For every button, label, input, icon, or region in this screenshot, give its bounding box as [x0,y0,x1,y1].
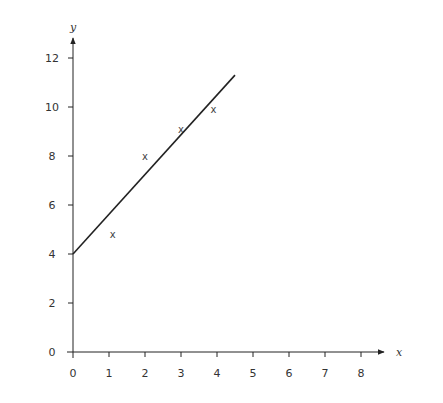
x-tick-label: 1 [106,367,113,380]
x-tick-label: 6 [286,367,293,380]
x-tick-label: 7 [322,367,329,380]
data-point-marker: x [110,229,116,240]
y-tick-label: 0 [49,346,56,359]
y-tick-label: 10 [45,101,59,114]
data-point-marker: x [142,151,148,162]
y-tick-label: 12 [45,52,59,65]
y-tick-label: 6 [49,199,56,212]
scatter-chart: xy 012345678024681012 xxxx [0,0,443,403]
y-tick-label: 2 [49,297,56,310]
x-tick-label: 4 [214,367,221,380]
x-tick-label: 8 [358,367,365,380]
best-fit-line [73,75,235,254]
data-point-marker: x [210,104,216,115]
axes: xy [67,21,403,359]
y-tick-label: 8 [49,150,56,163]
x-tick-label: 0 [70,367,77,380]
x-axis-label: x [396,346,403,359]
y-tick-label: 4 [49,248,56,261]
x-tick-label: 3 [178,367,185,380]
ticks: 012345678024681012 [45,52,365,380]
x-tick-label: 5 [250,367,257,380]
y-axis-label: y [69,21,77,34]
x-tick-label: 2 [142,367,149,380]
series-layer: xxxx [73,75,235,254]
